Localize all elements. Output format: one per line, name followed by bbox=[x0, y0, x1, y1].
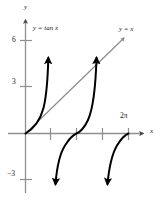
identity-line-y-equals-x bbox=[26, 38, 125, 134]
tan-branch-third bbox=[108, 134, 129, 185]
tan-branch-second bbox=[56, 58, 97, 184]
axis-group bbox=[8, 20, 143, 193]
plot-canvas bbox=[0, 0, 160, 201]
tangent-function-figure: y x 6 3 −3 2π y = tan x y = x bbox=[0, 0, 160, 201]
tan-branch-first bbox=[26, 58, 49, 134]
